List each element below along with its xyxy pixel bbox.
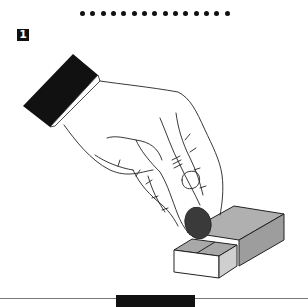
coin <box>181 204 214 242</box>
sleeve-cuff <box>23 54 100 127</box>
matchbox-drawer <box>174 239 237 278</box>
caption-label <box>116 295 195 307</box>
